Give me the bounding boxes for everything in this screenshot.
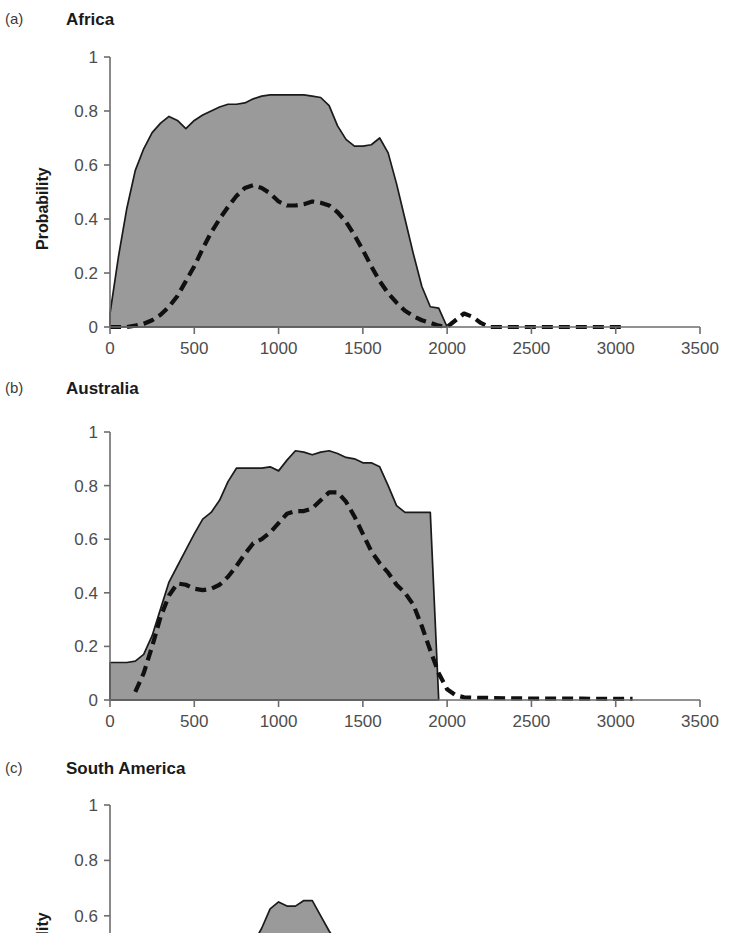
x-tick-label: 2500 — [513, 339, 551, 358]
y-tick-label: 0.8 — [74, 851, 98, 870]
x-tick-label: 3000 — [597, 712, 635, 731]
chart-africa: 00.20.40.60.8105001000150020002500300035… — [0, 0, 752, 370]
x-tick-label: 1500 — [344, 339, 382, 358]
y-tick-label: 0 — [89, 691, 98, 710]
panel-australia: (b) Australia Probability 00.20.40.60.81… — [0, 370, 752, 745]
x-tick-label: 3500 — [681, 712, 719, 731]
chart-south-america: 0.60.81 — [0, 745, 752, 933]
x-tick-label: 0 — [105, 712, 114, 731]
y-tick-label: 0 — [89, 318, 98, 337]
panel-africa: (a) Africa Probability 00.20.40.60.81050… — [0, 0, 752, 370]
x-tick-label: 2500 — [513, 712, 551, 731]
y-tick-label: 1 — [89, 796, 98, 815]
y-tick-label: 0.2 — [74, 264, 98, 283]
y-tick-label: 0.6 — [74, 156, 98, 175]
y-tick-label: 0.4 — [74, 210, 98, 229]
y-tick-label: 0.6 — [74, 530, 98, 549]
area-shaded-envelope — [220, 901, 346, 933]
y-tick-label: 0.6 — [74, 907, 98, 926]
x-tick-label: 500 — [180, 712, 208, 731]
y-tick-label: 0.2 — [74, 637, 98, 656]
x-tick-label: 1500 — [344, 712, 382, 731]
area-shaded-envelope — [110, 95, 447, 327]
x-tick-label: 2000 — [428, 339, 466, 358]
y-tick-label: 1 — [89, 48, 98, 67]
y-tick-label: 0.4 — [74, 584, 98, 603]
x-tick-label: 2000 — [428, 712, 466, 731]
y-tick-label: 0.8 — [74, 477, 98, 496]
x-tick-label: 500 — [180, 339, 208, 358]
chart-australia: 00.20.40.60.8105001000150020002500300035… — [0, 370, 752, 745]
x-tick-label: 3500 — [681, 339, 719, 358]
x-tick-label: 3000 — [597, 339, 635, 358]
x-tick-label: 1000 — [260, 712, 298, 731]
y-tick-label: 0.8 — [74, 102, 98, 121]
x-tick-label: 1000 — [260, 339, 298, 358]
panel-south-america: (c) South America Probability 0.60.81 — [0, 745, 752, 933]
x-tick-label: 0 — [105, 339, 114, 358]
y-tick-label: 1 — [89, 423, 98, 442]
